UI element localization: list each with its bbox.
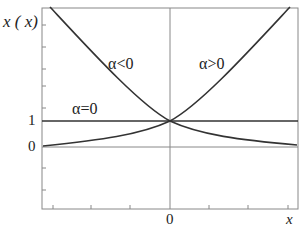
label-alpha-zero: α=0 [72,101,97,117]
y-axis-label: x ( x) [3,13,38,30]
x-tick-label-0: 0 [166,212,174,227]
y-tick-label-1: 1 [28,113,36,128]
y-tick-label-0: 0 [28,139,36,154]
curve-alpha-positive [43,7,290,146]
curve-alpha-negative [50,7,297,145]
label-alpha-positive: α>0 [199,56,224,72]
label-alpha-negative: α<0 [108,56,133,72]
chart-canvas [0,0,306,230]
y-ticks [42,25,46,190]
x-axis-label: x [286,212,293,227]
